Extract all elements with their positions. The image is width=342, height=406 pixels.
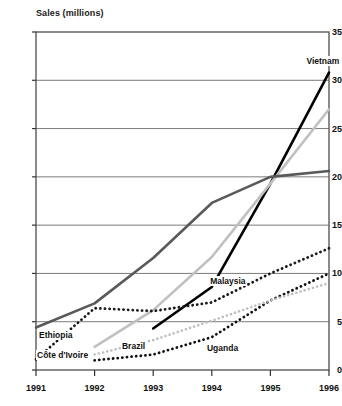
series-label-c-te-d-ivoire: Côte d'Ivoire bbox=[36, 350, 89, 360]
y-axis-tick-label: 15 bbox=[314, 220, 342, 230]
series-line-ethiopia bbox=[36, 171, 329, 327]
series-line-vietnam bbox=[153, 73, 329, 329]
series-label-ethiopia: Ethiopia bbox=[38, 330, 74, 340]
sales-line-chart: Sales (millions) 05101520253035199119921… bbox=[0, 0, 342, 406]
x-axis-tick-label: 1996 bbox=[319, 383, 339, 393]
y-axis-tick-label: 0 bbox=[314, 365, 342, 375]
y-axis-tick-label: 25 bbox=[314, 124, 342, 134]
series-line-brazil bbox=[95, 109, 329, 347]
y-axis-tick-label: 20 bbox=[314, 172, 342, 182]
series-label-uganda: Uganda bbox=[206, 343, 239, 353]
series-label-vietnam: Vietnam bbox=[305, 56, 340, 66]
series-label-brazil: Brazil bbox=[121, 341, 146, 351]
y-axis-tick-label: 10 bbox=[314, 268, 342, 278]
x-axis-tick-label: 1993 bbox=[143, 383, 163, 393]
y-axis-tick-label: 35 bbox=[314, 27, 342, 37]
series-label-malaysia: Malaysia bbox=[209, 276, 246, 286]
plot-frame bbox=[36, 32, 329, 370]
x-axis-tick-label: 1994 bbox=[202, 383, 222, 393]
x-axis-tick-label: 1992 bbox=[85, 383, 105, 393]
chart-title: Sales (millions) bbox=[36, 8, 104, 18]
y-axis-tick-label: 30 bbox=[314, 75, 342, 85]
x-axis-tick-label: 1991 bbox=[26, 383, 46, 393]
plot-canvas bbox=[0, 0, 342, 406]
x-axis-tick-label: 1995 bbox=[260, 383, 280, 393]
series-line-malaysia bbox=[36, 248, 329, 359]
y-axis-tick-label: 5 bbox=[314, 317, 342, 327]
